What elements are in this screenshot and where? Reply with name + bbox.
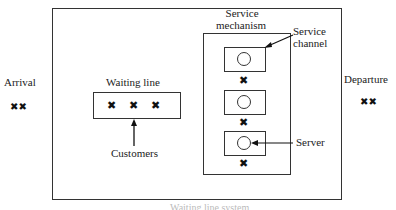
server-icon xyxy=(237,95,251,109)
service-mechanism-line2: mechanism xyxy=(216,20,266,31)
waiting-customer-icon: ✖ xyxy=(151,100,160,111)
waiting-customer-icon: ✖ xyxy=(107,100,116,111)
departure-label: Departure xyxy=(344,74,388,85)
customers-label: Customers xyxy=(111,148,158,159)
served-customer-icon: ✖ xyxy=(239,75,248,86)
customers-arrow-icon xyxy=(128,118,140,148)
service-channel-line1: Service xyxy=(293,26,327,37)
departure-customers-icon: ✖✖ xyxy=(360,96,377,107)
arrival-label: Arrival xyxy=(4,77,36,88)
server-icon xyxy=(237,136,251,150)
service-channel-label: Service channel xyxy=(293,26,327,49)
service-channel-arrow-icon xyxy=(262,34,294,50)
arrival-customers-icon: ✖✖ xyxy=(10,101,27,112)
served-customer-icon: ✖ xyxy=(239,158,248,169)
diagram-caption: Waiting line system xyxy=(170,202,249,210)
served-customer-icon: ✖ xyxy=(239,117,248,128)
server-label: Server xyxy=(296,137,325,148)
waiting-line-label: Waiting line xyxy=(106,77,160,88)
server-icon xyxy=(237,52,251,66)
server-arrow-icon xyxy=(250,138,294,148)
service-mechanism-line1: Service xyxy=(218,8,266,19)
service-mechanism-label: Service mechanism xyxy=(218,8,266,31)
waiting-customer-icon: ✖ xyxy=(129,100,138,111)
service-channel-line2: channel xyxy=(293,38,327,49)
